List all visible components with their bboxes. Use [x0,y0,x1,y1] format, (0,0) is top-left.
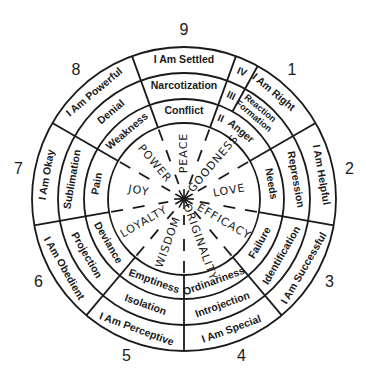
segment-divider [250,123,316,161]
spoke-dash [205,129,209,140]
spoke-dash [120,162,130,168]
roman-marker: IV [235,65,248,79]
spoke-dash [136,246,144,255]
spoke-dash [166,150,170,161]
spoke-dash [210,230,218,239]
spoke-dash [133,206,145,208]
virtue-label: POWER [135,142,174,185]
avoidance-label: Pain [88,172,104,196]
enneagram-diagram: I Am SettledI Am RightI Am HelpfulI Am S… [0,0,366,392]
type-number-7: 7 [14,160,23,177]
defense-label: Narcotization [151,79,218,91]
spoke-dash [224,246,232,255]
spoke-dash [161,186,170,191]
segment-divider [259,212,334,225]
virtue-label: LOVE [212,181,246,199]
type-number-4: 4 [237,347,246,364]
self-image-label: I Am Special [200,312,262,345]
type-number-5: 5 [122,347,131,364]
spoke-dash [159,129,163,140]
roman-markers: IVIIIII [216,65,249,125]
type-number-3: 3 [325,273,334,290]
defense-label: Introjection [193,289,251,320]
virtue-label: PEACE [177,133,190,174]
spoke-dash [245,210,257,212]
roman-marker: III [225,89,237,103]
type-number-2: 2 [345,160,354,177]
virtue-label: WISDOM [153,215,184,270]
type-number-6: 6 [34,273,43,290]
self-image-label: I Am Settled [154,53,214,65]
spoke-dash [139,173,149,179]
spoke-dash [151,230,159,239]
type-number-8: 8 [72,61,81,78]
type-number-9: 9 [180,21,189,38]
roman-marker: II [216,112,226,124]
spoke-dash [175,175,178,184]
virtue-label: LOYALTY [118,203,170,240]
virtue-label: JOY [126,182,150,199]
spoke-dash [238,162,248,168]
defense-label: Sublimation [60,149,82,210]
spoke-dash [223,206,235,208]
spoke-dash [111,210,123,212]
spoke-dash [198,150,202,161]
type-number-1: 1 [288,61,297,78]
avoidance-label: Conflict [164,104,204,116]
avoidance-label: Needs [263,167,280,200]
avoidance-label: Emptiness [127,266,181,295]
self-image-label: I Am Helpful [311,144,333,206]
spoke-dash [219,173,229,179]
